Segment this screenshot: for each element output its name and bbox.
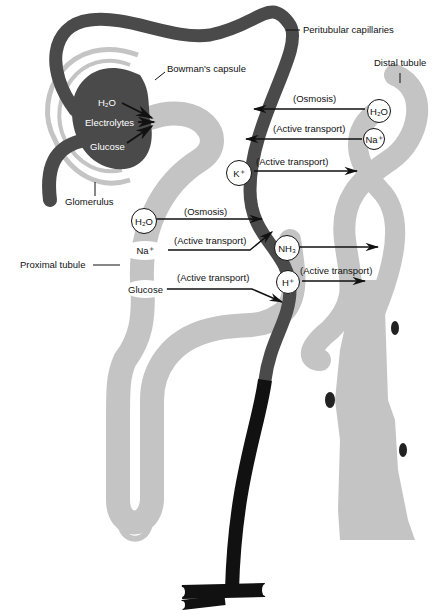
filtrate-h2o-label: H₂O xyxy=(98,97,116,108)
renal-vein xyxy=(232,380,265,590)
proximal-glucose-oval: Glucose xyxy=(124,280,167,298)
h-process: (Active transport) xyxy=(300,266,372,276)
distal-h2o-process: (Osmosis) xyxy=(293,94,336,104)
duct-opening xyxy=(391,321,399,335)
peritubular-capillaries-label: Peritubular capillaries xyxy=(303,25,394,35)
proximal-glucose-process: (Active transport) xyxy=(177,273,249,283)
distal-na-circle: Na⁺ xyxy=(363,128,385,150)
k-process: (Active transport) xyxy=(256,157,328,167)
proximal-h2o-process: (Osmosis) xyxy=(184,207,227,217)
filtrate-glucose-label: Glucose xyxy=(90,141,125,152)
distal-h2o-circle: H₂O xyxy=(367,99,391,123)
h-circle: H⁺ xyxy=(276,270,300,294)
distal-tubule-label: Distal tubule xyxy=(374,58,426,68)
collecting-duct xyxy=(335,280,415,540)
proximal-na-oval: Na⁺ xyxy=(122,241,168,260)
nephron-illustration xyxy=(0,0,435,615)
proximal-h2o-circle: H₂O xyxy=(131,208,157,234)
glomerulus-label: Glomerulus xyxy=(65,197,114,207)
proximal-tubule-label: Proximal tubule xyxy=(20,260,85,270)
filtrate-electrolytes-label: Electrolytes xyxy=(85,117,134,128)
k-circle: K⁺ xyxy=(226,160,252,186)
bowmans-capsule-label: Bowman's capsule xyxy=(167,64,246,74)
distal-na-process: (Active transport) xyxy=(273,124,345,134)
proximal-na-process: (Active transport) xyxy=(174,236,246,246)
nh3-circle: NH₃ xyxy=(274,235,300,261)
